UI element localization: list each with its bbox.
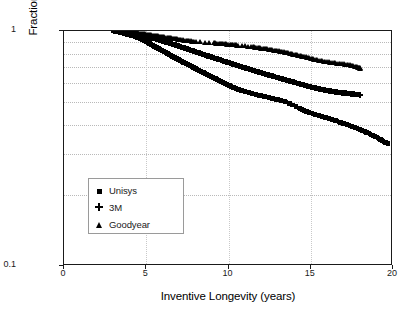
chart-legend: Unisys 3M Goodyear [88, 178, 184, 234]
x-tick-label: 10 [213, 268, 243, 278]
plus-marker-icon [89, 203, 109, 213]
x-tick-mark [392, 265, 393, 269]
x-gridline [311, 31, 312, 264]
y-gridline [64, 154, 391, 155]
x-tick-mark [145, 265, 146, 269]
legend-item-unisys[interactable]: Unisys [89, 182, 183, 199]
y-axis-label: Fraction of Inventors with at Least this… [22, 0, 44, 40]
y-gridline [64, 102, 391, 103]
x-tick-mark [310, 265, 311, 269]
y-tick-label: 0.1 [0, 259, 16, 269]
x-tick-label: 20 [377, 268, 407, 278]
legend-label-3m: 3M [109, 202, 122, 213]
y-tick-label: 1 [0, 24, 16, 34]
triangle-marker-icon [89, 220, 109, 230]
legend-item-3m[interactable]: 3M [89, 199, 183, 216]
legend-label-goodyear: Goodyear [109, 219, 150, 230]
square-marker-icon [89, 186, 109, 196]
y-axis-label-wrapper: Fraction of Inventors with at Least this… [8, 18, 30, 268]
x-tick-mark [63, 265, 64, 269]
x-tick-mark [228, 265, 229, 269]
x-tick-label: 0 [48, 268, 78, 278]
square-marker-icon [386, 141, 390, 145]
y-tick-mark [59, 30, 63, 31]
x-axis-label: Inventive Longevity (years) [63, 290, 393, 302]
y-gridline [64, 54, 391, 55]
x-tick-label: 15 [295, 268, 325, 278]
legend-label-unisys: Unisys [109, 185, 137, 196]
triangle-marker-icon [357, 66, 363, 71]
chart-container: Fraction of Inventors with at Least this… [0, 0, 413, 318]
y-gridline [64, 67, 391, 68]
x-tick-label: 5 [130, 268, 160, 278]
legend-item-goodyear[interactable]: Goodyear [89, 216, 183, 233]
plus-marker-icon [357, 92, 363, 98]
